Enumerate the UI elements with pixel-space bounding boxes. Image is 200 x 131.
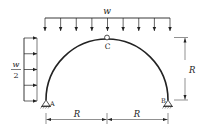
top-load-label: w (103, 6, 111, 16)
height-dimension-label: R (188, 65, 196, 75)
span-left-label: R (73, 109, 81, 119)
side-load-numerator: w (13, 60, 20, 69)
height-dimension (174, 38, 188, 101)
hinge-c (105, 35, 110, 40)
side-distributed-load (24, 38, 37, 101)
support-a-label: A (49, 100, 55, 108)
side-load-label: w 2 (11, 60, 21, 80)
span-right-label: R (133, 109, 141, 119)
arch-diagram: w w 2 C A B R (0, 0, 200, 131)
side-load-denominator: 2 (13, 71, 18, 80)
span-dimension (46, 113, 168, 124)
hinge-c-label: C (105, 42, 111, 51)
top-distributed-load (45, 18, 170, 31)
support-b-label: B (161, 97, 166, 105)
